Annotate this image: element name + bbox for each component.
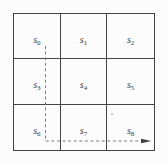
cell-s5: s5: [107, 59, 154, 104]
state-grid: s0 s1 s2 s3 s4 s5 s6 s7 s8: [13, 13, 155, 151]
state-subscript: 3: [37, 84, 41, 92]
state-label-s7: s7: [80, 126, 87, 138]
speck-artifact: [111, 113, 113, 115]
gridworld-figure: s0 s1 s2 s3 s4 s5 s6 s7 s8: [0, 0, 167, 162]
state-label-s3: s3: [33, 80, 40, 92]
state-label-s6: s6: [33, 126, 40, 138]
cell-s2: s2: [107, 14, 154, 59]
state-label-s5: s5: [127, 80, 134, 92]
state-subscript: 7: [84, 130, 88, 138]
cell-s8: s8: [107, 105, 154, 150]
state-label-s4: s4: [80, 80, 87, 92]
state-label-s1: s1: [80, 35, 87, 47]
state-subscript: 6: [37, 130, 41, 138]
state-subscript: 4: [84, 84, 88, 92]
state-subscript: 5: [131, 84, 135, 92]
cell-s4: s4: [61, 59, 108, 104]
state-subscript: 2: [131, 39, 135, 47]
cell-s1: s1: [61, 14, 108, 59]
cell-s0: s0: [14, 14, 61, 59]
state-subscript: 0: [37, 39, 41, 47]
cell-s6: s6: [14, 105, 61, 150]
cell-s3: s3: [14, 59, 61, 104]
state-label-s2: s2: [127, 35, 134, 47]
state-label-s0: s0: [33, 35, 40, 47]
cell-s7: s7: [61, 105, 108, 150]
state-label-s8: s8: [127, 126, 134, 138]
state-subscript: 1: [84, 39, 88, 47]
state-subscript: 8: [131, 130, 135, 138]
